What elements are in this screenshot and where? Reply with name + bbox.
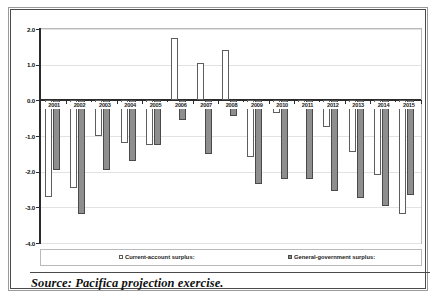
legend-label-current-account: Current-account surplus:: [125, 254, 195, 260]
y-axis-tick-label: -1.0: [13, 133, 35, 140]
x-axis-label-2008: 2008: [219, 102, 243, 109]
chart-legend: Current-account surplus: General-governm…: [40, 249, 422, 266]
gridline: [41, 207, 421, 208]
bar-2011-general-government: [306, 100, 313, 178]
gridline: [41, 136, 421, 137]
bar-2004-general-government: [129, 100, 136, 161]
y-axis-tick-label: 0.0: [13, 97, 35, 104]
x-axis-label-2013: 2013: [346, 102, 370, 109]
bar-2003-general-government: [103, 100, 110, 170]
legend-label-general-government: General-government surplus:: [294, 254, 375, 260]
bar-2007-current-account: [197, 63, 204, 100]
x-axis-label-2007: 2007: [194, 102, 218, 109]
y-axis-tick: [36, 172, 40, 173]
gridline: [41, 65, 421, 66]
chart-figure: 2001200220032004200520062007200820092010…: [0, 0, 438, 298]
x-axis-label-2001: 2001: [42, 102, 66, 109]
bar-2014-current-account: [374, 100, 381, 175]
legend-item-general-government: General-government surplus:: [288, 254, 375, 260]
x-axis-label-2004: 2004: [118, 102, 142, 109]
gridline: [41, 243, 421, 244]
gridline: [41, 29, 421, 30]
x-axis-label-2010: 2010: [270, 102, 294, 109]
x-axis-label-2014: 2014: [371, 102, 395, 109]
bar-2002-current-account: [70, 100, 77, 187]
figure-inner-border: 2001200220032004200520062007200820092010…: [10, 9, 426, 289]
bar-2001-current-account: [45, 100, 52, 196]
x-axis-label-2012: 2012: [321, 102, 345, 109]
bar-2012-general-government: [331, 100, 338, 191]
x-axis-label-2003: 2003: [93, 102, 117, 109]
bar-2002-general-government: [78, 100, 85, 214]
y-axis-tick-label: -2.0: [13, 168, 35, 175]
bar-2015-current-account: [399, 100, 406, 214]
source-note: Source: Pacifica projection exercise.: [31, 276, 421, 291]
bar-2010-general-government: [281, 100, 288, 178]
x-axis-label-2006: 2006: [169, 102, 193, 109]
y-axis-tick: [36, 136, 40, 137]
x-axis-label-2005: 2005: [143, 102, 167, 109]
bar-2006-current-account: [171, 38, 178, 100]
x-axis-label-2015: 2015: [397, 102, 421, 109]
y-axis-tick: [36, 100, 40, 101]
bar-2013-general-government: [357, 100, 364, 198]
y-axis-tick: [36, 207, 40, 208]
x-axis-label-2002: 2002: [67, 102, 91, 109]
y-axis-tick-label: 2.0: [13, 26, 35, 33]
plot-area: 2001200220032004200520062007200820092010…: [40, 28, 422, 244]
y-axis-tick: [36, 29, 40, 30]
x-axis-label-2011: 2011: [295, 102, 319, 109]
x-axis-label-2009: 2009: [245, 102, 269, 109]
legend-item-current-account: Current-account surplus:: [119, 254, 195, 260]
bar-2009-general-government: [255, 100, 262, 184]
open-square-marker-icon: [119, 255, 123, 259]
plot-inner: 2001200220032004200520062007200820092010…: [41, 29, 421, 243]
bar-2014-general-government: [382, 100, 389, 205]
bar-2001-general-government: [53, 100, 60, 170]
y-axis-tick: [36, 243, 40, 244]
y-axis-tick-label: 1.0: [13, 61, 35, 68]
filled-square-marker-icon: [288, 255, 292, 259]
y-axis-tick-label: -3.0: [13, 204, 35, 211]
source-divider: [30, 272, 430, 273]
bar-2015-general-government: [407, 100, 414, 195]
y-axis-tick-label: -4.0: [13, 240, 35, 247]
gridline: [41, 172, 421, 173]
bar-2008-current-account: [222, 50, 229, 100]
y-axis-tick: [36, 65, 40, 66]
